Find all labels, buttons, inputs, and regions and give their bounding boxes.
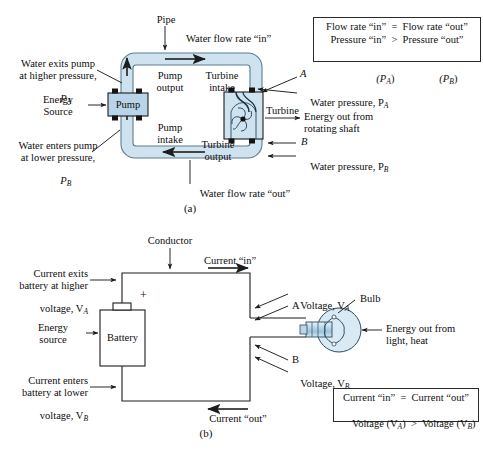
label-energy-out-shaft: Energy out from rotating shaft: [304, 111, 373, 134]
energy-source-a-line1: Energy: [30, 94, 86, 106]
water-pressure-b-text: Water pressure, P: [310, 161, 384, 172]
label-turbine: Turbine: [266, 105, 299, 117]
label-water-flow-in: Water flow rate “in”: [186, 33, 271, 45]
label-point-a-water: A: [300, 68, 306, 80]
panel-a-info-line2: Pressure “in” > Pressure “out”: [314, 33, 480, 46]
panel-a-info-box: Flow rate “in” = Flow rate “out” Pressur…: [313, 17, 481, 62]
energy-source-a-line2: Source: [30, 106, 86, 118]
water-exits-line1: Water exits pump: [12, 58, 104, 70]
water-enters-line2: at lower pressure,: [8, 152, 108, 164]
water-pressure-b-sub: B: [384, 165, 389, 174]
label-point-a-elec: A: [292, 300, 300, 312]
panel-b-info-box: Current “in” = Current “out” Voltage (VA…: [333, 388, 479, 422]
energy-out-light-line2: light, heat: [386, 335, 455, 347]
energy-out-shaft-line2: rotating shaft: [304, 123, 373, 135]
current-exits-line2: battery at higher: [8, 280, 88, 292]
label-pump: Pump: [108, 99, 148, 111]
label-conductor: Conductor: [142, 235, 198, 247]
pb-paren-close: ): [454, 73, 458, 84]
label-water-enters-pump: Water enters pump at lower pressure, PB: [8, 140, 108, 201]
panel-b-info-line2: Voltage (VA) > Voltage (VB): [334, 404, 478, 446]
pa-paren-close: ): [391, 73, 395, 84]
label-point-b-elec: B: [292, 354, 299, 366]
turbine-intake-line1: Turbine: [196, 70, 248, 82]
label-pump-output: Pump output: [146, 70, 194, 93]
label-bulb: Bulb: [360, 293, 380, 305]
current-enters-line2: battery at lower: [8, 387, 88, 399]
energy-out-light-line1: Energy out from: [386, 323, 455, 335]
voltage-b-text: Voltage, V: [300, 378, 345, 389]
panel-b-info-line1: Current “in” = Current “out”: [334, 391, 478, 404]
vb-volt-a: Voltage (V: [352, 418, 398, 429]
panel-b-caption: (b): [186, 428, 226, 440]
water-enters-line1: Water enters pump: [8, 140, 108, 152]
current-exits-va: voltage, V: [40, 303, 84, 314]
voltage-a-sub: A: [345, 304, 350, 313]
turbine-intake-line2: intake: [196, 82, 248, 94]
figure-root: Pipe Water flow rate “in” Water flow rat…: [0, 0, 483, 450]
label-turbine-output: Turbine output: [191, 139, 245, 162]
current-enters-vb-sub: B: [83, 414, 88, 423]
vb-volt-mid: ) > Voltage (V: [402, 418, 467, 429]
panel-b-current-arrows: [208, 268, 248, 409]
current-enters-vb: voltage, V: [40, 410, 84, 421]
voltage-a-text: Voltage, V: [300, 300, 345, 311]
pump-output-line1: Pump: [146, 70, 194, 82]
label-battery-plus: +: [140, 290, 147, 302]
current-enters-line1: Current enters: [8, 375, 88, 387]
turbine-device: [224, 88, 263, 144]
label-pump-intake: Pump intake: [146, 122, 194, 145]
panel-a-info-line1: Flow rate “in” = Flow rate “out”: [314, 20, 480, 33]
label-energy-source-b: Energy source: [24, 322, 82, 345]
turbine-output-line2: output: [191, 151, 245, 163]
energy-source-b-line1: Energy: [24, 322, 82, 334]
current-exits-va-sub: A: [83, 307, 88, 316]
current-exits-line1: Current exits: [8, 268, 88, 280]
water-exits-line2: at higher pressure,: [12, 70, 104, 82]
label-water-flow-out: Water flow rate “out”: [180, 188, 310, 200]
energy-source-b-line2: source: [24, 334, 82, 346]
pa-paren-open: (P: [376, 73, 386, 84]
label-current-out: Current “out”: [193, 413, 283, 425]
panel-b-circuit-wires: [122, 273, 306, 401]
label-energy-out-light: Energy out from light, heat: [386, 323, 455, 346]
label-pipe: Pipe: [145, 14, 187, 26]
label-current-enters-battery: Current enters battery at lower voltage,…: [8, 375, 88, 436]
water-enters-pb-sub: B: [67, 179, 72, 188]
label-current-in: Current “in”: [204, 255, 256, 267]
turbine-output-line1: Turbine: [191, 139, 245, 151]
pump-intake-line1: Pump: [146, 122, 194, 134]
label-energy-source-a: Energy Source: [30, 94, 86, 117]
panel-a-caption: (a): [170, 203, 210, 215]
pump-intake-line2: intake: [146, 134, 194, 146]
panel-a-info-line3: (PA) (PB): [314, 46, 480, 114]
label-point-b-water: B: [301, 136, 307, 148]
label-turbine-intake: Turbine intake: [196, 70, 248, 93]
pb-paren-open: (P: [439, 73, 449, 84]
label-current-exits-battery: Current exits battery at higher voltage,…: [8, 268, 88, 329]
vb-volt-end: ): [472, 418, 476, 429]
label-water-pressure-b: Water pressure, PB: [300, 149, 388, 187]
label-battery: Battery: [100, 332, 145, 344]
pump-output-line2: output: [146, 82, 194, 94]
